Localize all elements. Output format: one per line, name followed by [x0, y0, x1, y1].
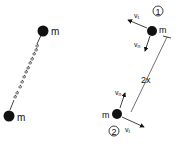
diagram-canvas: m m 1 m vt vn 2x m vn vt 2 — [0, 0, 190, 144]
body1-vn-label: vn — [134, 41, 141, 49]
body1-vt-arrow — [128, 20, 147, 28]
mass-top — [38, 26, 49, 37]
body1-number: 1 — [155, 7, 160, 17]
spring-icon — [14, 44, 39, 98]
body2-mass-label: m — [102, 110, 110, 120]
left-spring-system: m m — [4, 26, 60, 124]
mass-bottom-label: m — [17, 112, 25, 123]
body2-mass — [112, 109, 122, 119]
body2-vn-label: vn — [115, 89, 122, 97]
rod-bottom — [10, 100, 14, 110]
mass-top-label: m — [51, 26, 59, 37]
body2-number: 2 — [111, 127, 116, 137]
body1-vt-label: vt — [134, 12, 140, 20]
body1-mass — [147, 26, 157, 36]
body1-mass-label: m — [159, 25, 167, 35]
right-velocity-system: 1 m vt vn 2x m vn vt 2 — [102, 6, 171, 137]
body2-vt-label: vt — [125, 126, 131, 134]
distance-label: 2x — [141, 75, 151, 85]
body1-vn-arrow — [145, 36, 150, 51]
mass-bottom — [4, 111, 15, 122]
